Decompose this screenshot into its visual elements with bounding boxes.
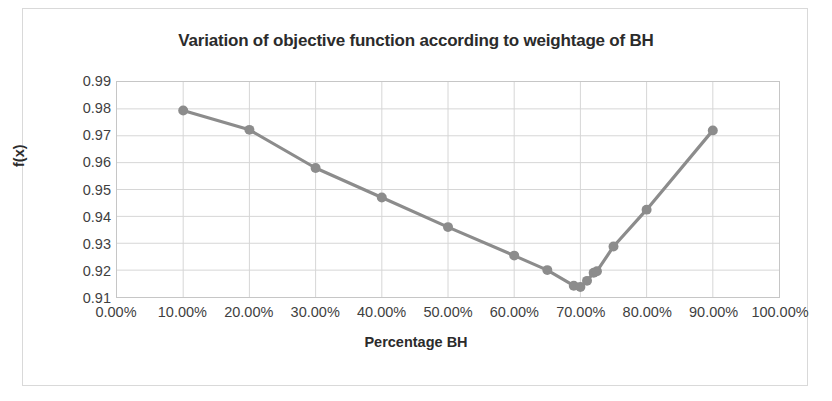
y-axis-tick-label: 0.97: [49, 127, 111, 143]
x-axis-tick-label: 10.00%: [158, 304, 207, 320]
y-axis-tick-labels: 0.990.980.970.960.950.940.930.920.91: [43, 81, 111, 298]
data-point: [178, 106, 188, 116]
data-point: [642, 205, 652, 215]
y-axis-tick-label: 0.93: [49, 236, 111, 252]
chart-figure: Variation of objective function accordin…: [0, 0, 832, 401]
y-axis-tick-label: 0.98: [49, 100, 111, 116]
x-axis-tick-label: 30.00%: [291, 304, 340, 320]
data-point: [592, 266, 602, 276]
plot-svg: [117, 82, 779, 297]
data-point: [311, 163, 321, 173]
y-axis-tick-label: 0.95: [49, 182, 111, 198]
x-axis-tick-label: 90.00%: [689, 304, 738, 320]
x-axis-tick-label: 20.00%: [224, 304, 273, 320]
x-axis-tick-label: 80.00%: [623, 304, 672, 320]
plot-area: [116, 81, 780, 298]
x-axis-tick-label: 100.00%: [751, 304, 808, 320]
data-point: [708, 125, 718, 135]
data-point: [244, 125, 254, 135]
x-axis-tick-label: 50.00%: [423, 304, 472, 320]
y-axis-tick-label: 0.94: [49, 209, 111, 225]
chart-title: Variation of objective function accordin…: [23, 31, 809, 51]
x-axis-tick-label: 0.00%: [95, 304, 136, 320]
data-point: [609, 242, 619, 252]
data-point: [509, 251, 519, 261]
x-axis-tick-label: 40.00%: [357, 304, 406, 320]
data-point: [443, 222, 453, 232]
y-axis-tick-label: 0.99: [49, 73, 111, 89]
x-axis-tick-label: 70.00%: [556, 304, 605, 320]
data-point: [582, 276, 592, 286]
chart-frame: Variation of objective function accordin…: [22, 8, 808, 386]
y-axis-tick-label: 0.92: [49, 263, 111, 279]
y-axis-title: f(x): [11, 144, 27, 167]
x-axis-tick-label: 60.00%: [490, 304, 539, 320]
y-axis-tick-label: 0.96: [49, 154, 111, 170]
x-axis-title: Percentage BH: [23, 334, 809, 350]
x-axis-tick-labels: 0.00%10.00%20.00%30.00%40.00%50.00%60.00…: [116, 304, 780, 326]
data-point: [377, 193, 387, 203]
data-point: [542, 265, 552, 275]
